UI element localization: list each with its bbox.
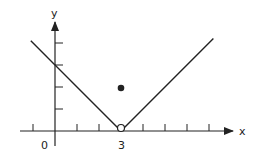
x-tick-label: 3 (118, 139, 125, 152)
plot-area (31, 39, 214, 132)
x-tick-label: 0 (41, 139, 48, 152)
graph-line (31, 39, 214, 131)
axes: 03 (20, 22, 233, 152)
y-axis-label: y (51, 7, 58, 20)
x-axis-label: x (239, 125, 246, 138)
open-point (118, 125, 125, 132)
filled-point (118, 85, 125, 92)
chart: 03 x y (0, 0, 258, 156)
